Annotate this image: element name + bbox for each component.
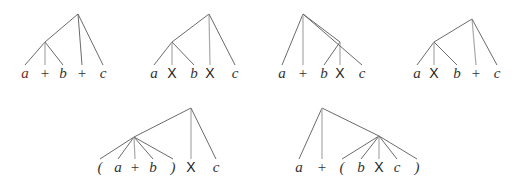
leaf-label: b (320, 65, 328, 81)
leaf-label: a (150, 65, 158, 81)
leaf-label: ) (170, 159, 176, 176)
tree-edge (118, 137, 134, 159)
leaf-label: c (494, 65, 501, 81)
tree-edge (134, 137, 173, 159)
leaf-label: c (359, 65, 366, 81)
tree-5: (a+b)Xc (98, 108, 220, 176)
leaf-label: a (413, 65, 421, 81)
leaf-label: X (374, 159, 384, 175)
leaf-label: X (167, 65, 177, 81)
tree-edge (417, 42, 434, 65)
leaf-label: c (232, 65, 239, 81)
parse-tree-diagram: a+b+caXbXca+bXcaXb+c(a+b)Xca+(bXc) (0, 0, 523, 183)
tree-edge (434, 19, 472, 42)
tree-edge (282, 14, 303, 65)
leaf-label: c (394, 159, 401, 175)
tree-edge (191, 108, 216, 159)
leaf-label: c (213, 159, 220, 175)
tree-edge (322, 108, 379, 136)
leaf-label: + (472, 65, 480, 81)
tree-edge (134, 137, 135, 159)
tree-edge (379, 136, 417, 159)
tree-edge (154, 42, 172, 65)
leaf-label: b (453, 65, 461, 81)
tree-1: a+b+c (21, 14, 106, 81)
tree-edge (45, 42, 63, 65)
leaf-label: + (299, 65, 307, 81)
tree-edge (299, 108, 322, 159)
leaf-label: ( (98, 159, 104, 176)
tree-edge (324, 42, 340, 65)
tree-edge (434, 42, 457, 65)
tree-edge (209, 14, 210, 65)
tree-6: a+(bXc) (295, 108, 419, 176)
leaf-label: + (318, 159, 326, 175)
leaf-label: b (149, 159, 157, 175)
leaf-label: a (278, 65, 286, 81)
leaf-label: X (335, 65, 345, 81)
leaf-label: X (205, 65, 215, 81)
leaf-label: a (295, 159, 303, 175)
leaf-label: X (429, 65, 439, 81)
tree-edge (342, 136, 379, 159)
leaf-label: + (131, 159, 139, 175)
leaf-label: X (186, 159, 196, 175)
tree-edge (45, 14, 78, 42)
leaf-label: c (100, 65, 107, 81)
leaf-label: + (41, 65, 49, 81)
tree-edge (303, 14, 362, 65)
tree-edge (100, 137, 134, 159)
leaf-label: + (78, 65, 86, 81)
tree-edge (172, 42, 194, 65)
tree-2: aXbXc (150, 14, 238, 81)
tree-edge (172, 14, 209, 42)
leaf-label: a (21, 65, 29, 81)
tree-4: aXb+c (413, 19, 500, 81)
leaf-label: ( (340, 159, 346, 176)
tree-edge (361, 136, 379, 159)
tree-edge (25, 42, 45, 65)
tree-edge (209, 14, 235, 65)
tree-edge (134, 108, 191, 137)
tree-3: a+bXc (278, 14, 365, 81)
leaf-label: ) (414, 159, 420, 176)
leaf-label: b (357, 159, 365, 175)
leaf-label: b (59, 65, 67, 81)
tree-edge (134, 137, 153, 159)
leaf-label: b (190, 65, 198, 81)
tree-edge (379, 136, 397, 159)
leaf-label: a (114, 159, 122, 175)
